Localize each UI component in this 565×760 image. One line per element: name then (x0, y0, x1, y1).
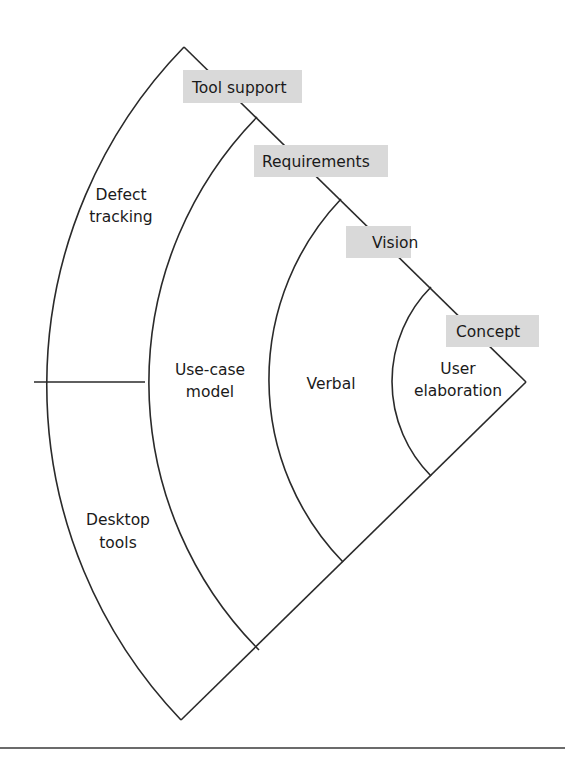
nested-sector-diagram: Tool support Requirements Vision Concept… (0, 0, 565, 760)
outer-arc (47, 47, 184, 720)
region-defect-tracking: Defect tracking (89, 186, 152, 226)
svg-text:Desktop: Desktop (86, 511, 150, 529)
layer-label-concept: Concept (446, 315, 539, 347)
svg-text:Vision: Vision (372, 234, 418, 252)
svg-text:elaboration: elaboration (414, 382, 502, 400)
svg-text:tracking: tracking (89, 208, 152, 226)
svg-text:Defect: Defect (95, 186, 146, 204)
svg-text:Requirements: Requirements (262, 153, 370, 171)
svg-text:User: User (440, 360, 476, 378)
layer-label-requirements: Requirements (254, 145, 388, 177)
region-desktop-tools: Desktop tools (86, 511, 150, 552)
layer-label-vision: Vision (346, 226, 418, 258)
svg-text:tools: tools (99, 534, 136, 552)
lower-radial-edge (181, 382, 526, 720)
svg-text:Verbal: Verbal (307, 375, 356, 393)
region-user-elaboration: User elaboration (414, 360, 502, 400)
svg-text:Use-case: Use-case (175, 361, 245, 379)
svg-text:model: model (186, 383, 234, 401)
layer-label-tool-support: Tool support (183, 70, 302, 103)
region-verbal: Verbal (307, 375, 356, 393)
svg-text:Tool support: Tool support (191, 79, 287, 97)
region-use-case-model: Use-case model (175, 361, 245, 401)
svg-text:Concept: Concept (456, 323, 520, 341)
